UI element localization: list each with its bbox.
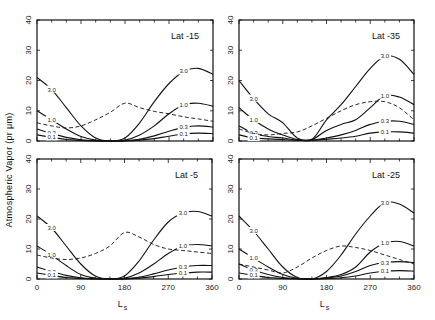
series-label: 1.0 (179, 102, 188, 108)
chart-panel-top-left: 010203040Lat -153.03.01.01.00.30.30.10.1 (24, 15, 213, 143)
series-label: 1.0 (249, 117, 258, 123)
y-tick-label: 40 (24, 15, 33, 24)
panel-title: Lat -25 (372, 170, 400, 180)
x-tick-label: 180 (118, 283, 132, 292)
series-label: 0.3 (381, 118, 390, 124)
x-tick-label: 0 (237, 283, 242, 292)
x-tick-label: 360 (407, 283, 421, 292)
series-label: 1.0 (47, 252, 56, 258)
x-axis-label: Ls (118, 299, 128, 311)
x-axis-label: Ls (320, 299, 330, 311)
panel-title: Lat -35 (372, 31, 400, 41)
y-tick-label: 30 (226, 184, 235, 193)
series-label: 0.3 (381, 260, 390, 266)
y-tick-label: 20 (226, 76, 235, 85)
series-label: 1.0 (381, 240, 390, 246)
panel-title: Lat -15 (171, 31, 199, 41)
y-tick-label: 30 (226, 45, 235, 54)
series-label: 3.0 (47, 87, 56, 93)
y-axis-label-text: Atmospheric Vapor (pr μm) (4, 112, 14, 227)
y-tick-label: 20 (226, 214, 235, 223)
x-tick-label: 360 (205, 283, 219, 292)
series-label: 0.1 (249, 272, 258, 278)
y-tick-label: 10 (226, 244, 235, 253)
series-label: 0.1 (381, 129, 390, 135)
series-label: 0.1 (381, 268, 390, 274)
y-tick-label: 20 (24, 214, 33, 223)
y-tick-label: 40 (226, 15, 235, 24)
series-label: 1.0 (179, 243, 188, 249)
series-label: 3.0 (249, 228, 258, 234)
series-label: 3.0 (381, 200, 390, 206)
y-tick-label: 0 (226, 138, 235, 143)
series-label: 0.1 (179, 131, 188, 137)
chart-panel-top-right: 010203040Lat -353.03.01.01.00.30.30.10.1 (226, 15, 414, 143)
x-tick-label: 90 (76, 283, 85, 292)
y-tick-label: 30 (24, 45, 33, 54)
x-tick-label: 270 (364, 283, 378, 292)
y-tick-label: 0 (24, 138, 33, 143)
chart-panel-bottom-right: 010203040090180270360LsLat -253.03.01.01… (226, 154, 421, 311)
y-tick-label: 0 (24, 276, 33, 281)
series-label: 0.1 (249, 135, 258, 141)
series-label: 1.0 (47, 117, 56, 123)
series-label: 3.0 (179, 210, 188, 216)
y-tick-label: 20 (24, 76, 33, 85)
x-tick-label: 180 (320, 283, 334, 292)
y-tick-label: 40 (24, 154, 33, 163)
series-label: 0.1 (179, 270, 188, 276)
series-label: 0.1 (47, 272, 56, 278)
series-label: 3.0 (179, 68, 188, 74)
y-tick-label: 10 (226, 106, 235, 115)
y-tick-label: 0 (226, 276, 235, 281)
x-tick-label: 0 (35, 283, 40, 292)
x-tick-label: 270 (162, 283, 176, 292)
chart-panel-bottom-left: 010203040090180270360LsLat -53.03.01.01.… (24, 154, 219, 311)
x-tick-label: 90 (278, 283, 287, 292)
series-label: 3.0 (47, 225, 56, 231)
series-label: 3.0 (381, 53, 390, 59)
y-tick-label: 40 (226, 154, 235, 163)
y-tick-label: 10 (24, 244, 33, 253)
y-axis-label: Atmospheric Vapor (pr μm) (2, 80, 16, 260)
series-label: 0.1 (47, 134, 56, 140)
series-label: 1.0 (381, 93, 390, 99)
y-tick-label: 10 (24, 106, 33, 115)
panel-title: Lat -5 (175, 170, 198, 180)
y-tick-label: 30 (24, 184, 33, 193)
series-label: 0.3 (179, 124, 188, 130)
series-label: 1.0 (249, 255, 258, 261)
series-label: 3.0 (249, 96, 258, 102)
figure: 010203040Lat -153.03.01.01.00.30.30.10.1… (0, 0, 435, 320)
